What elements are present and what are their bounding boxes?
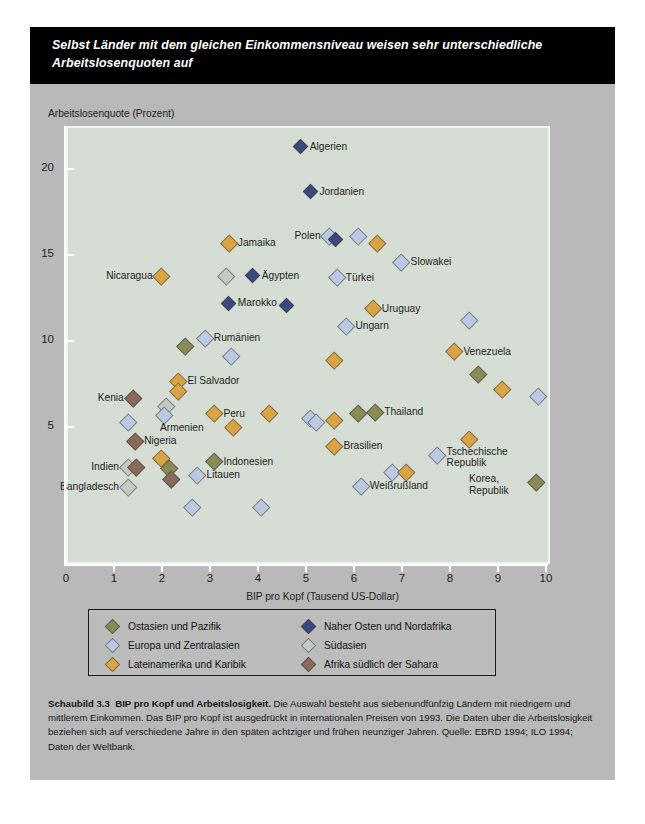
data-point xyxy=(393,253,411,271)
data-point-label: Venezuela xyxy=(463,346,511,358)
x-axis-tick xyxy=(497,564,499,572)
plot-area: AlgerienJordanienJamaikaPolenNicaraguaÄg… xyxy=(66,126,550,564)
data-point xyxy=(527,473,545,491)
x-axis-label: BIP pro Kopf (Tausend US-Dollar) xyxy=(0,591,645,602)
x-axis-tick-label: 9 xyxy=(483,572,513,584)
data-point xyxy=(225,418,243,436)
data-point-label: Marokko xyxy=(238,298,277,310)
data-point xyxy=(326,351,344,369)
data-point-label: Kenia xyxy=(98,392,124,404)
data-point xyxy=(326,437,344,455)
legend-label: Afrika südlich der Sahara xyxy=(324,659,438,670)
data-point-label: Peru xyxy=(223,408,245,420)
data-point-label: Korea, Republik xyxy=(469,473,527,496)
data-point xyxy=(494,381,512,399)
data-point-label: Ägypten xyxy=(262,270,299,282)
data-point xyxy=(328,269,346,287)
data-point xyxy=(429,446,447,464)
data-point-label: Brasilien xyxy=(343,440,382,452)
data-point-label: El Salvador xyxy=(187,375,239,387)
data-point xyxy=(252,498,270,516)
x-axis-tick-label: 5 xyxy=(291,572,321,584)
data-point-label: Thailand xyxy=(384,406,423,418)
data-point-label: Armenien xyxy=(160,422,204,434)
data-point xyxy=(218,267,236,285)
data-point-label: Türkei xyxy=(346,272,374,284)
data-point-label: Algerien xyxy=(310,141,347,153)
data-point-label: Litauen xyxy=(207,470,240,482)
legend-swatch xyxy=(105,638,121,654)
x-axis-tick xyxy=(209,564,211,572)
title-banner: Selbst Länder mit dem gleichen Einkommen… xyxy=(30,27,615,84)
y-axis-tick-label: 15 xyxy=(14,247,54,259)
data-point xyxy=(220,234,238,252)
y-axis-tick xyxy=(66,426,74,428)
data-point xyxy=(222,347,240,365)
x-axis-tick-label: 0 xyxy=(51,572,81,584)
data-point xyxy=(221,296,237,312)
data-point-label: Uruguay xyxy=(382,303,421,315)
data-point xyxy=(470,365,488,383)
plot-points-layer: AlgerienJordanienJamaikaPolenNicaraguaÄg… xyxy=(68,128,548,562)
legend-swatch xyxy=(301,638,317,654)
legend-label: Europa und Zentralasien xyxy=(128,640,240,651)
legend-label: Südasien xyxy=(324,640,366,651)
y-axis-tick xyxy=(66,168,74,170)
data-point xyxy=(530,387,548,405)
data-point xyxy=(153,267,171,285)
legend-swatch xyxy=(105,619,121,635)
data-point-label: Polen xyxy=(295,231,321,243)
data-point xyxy=(338,317,356,335)
figure-page: Selbst Länder mit dem gleichen Einkommen… xyxy=(0,0,645,824)
data-point-label: Jordanien xyxy=(319,186,364,198)
data-point-label: Nigeria xyxy=(144,435,176,447)
x-axis-tick xyxy=(113,564,115,572)
data-point xyxy=(124,389,142,407)
data-point-label: Tschechische Republik xyxy=(447,446,519,469)
figure-caption: Schaubild 3.3 BIP pro Kopf und Arbeitslo… xyxy=(48,697,600,754)
data-point xyxy=(279,297,295,313)
x-axis-tick-label: 4 xyxy=(243,572,273,584)
data-point xyxy=(206,405,224,423)
y-axis-tick xyxy=(66,254,74,256)
data-point xyxy=(398,463,416,481)
data-point xyxy=(261,405,279,423)
legend-swatch xyxy=(301,657,317,673)
data-point-label: Indien xyxy=(91,461,119,473)
data-point xyxy=(369,234,387,252)
x-axis-tick-label: 1 xyxy=(99,572,129,584)
x-axis-tick-label: 7 xyxy=(387,572,417,584)
legend-label: Lateinamerika und Karibik xyxy=(128,659,246,670)
data-point xyxy=(303,184,319,200)
data-point xyxy=(293,139,309,155)
x-axis-tick xyxy=(305,564,307,572)
x-axis-tick-label: 10 xyxy=(531,572,561,584)
y-axis-tick xyxy=(66,340,74,342)
data-point xyxy=(446,343,464,361)
legend-label: Ostasien und Pazifik xyxy=(128,621,221,632)
data-point xyxy=(245,268,261,284)
data-point xyxy=(364,300,382,318)
title-line-1: Selbst Länder mit dem gleichen Einkommen… xyxy=(52,38,542,52)
x-axis-tick xyxy=(161,564,163,572)
data-point-label: Indonesien xyxy=(223,456,273,468)
data-point xyxy=(126,432,144,450)
data-point xyxy=(177,338,195,356)
x-axis-tick xyxy=(257,564,259,572)
legend-swatch xyxy=(105,657,121,673)
y-axis-tick-label: 20 xyxy=(14,161,54,173)
caption-figure-number: Schaubild 3.3 xyxy=(48,698,110,709)
x-axis-tick-label: 8 xyxy=(435,572,465,584)
legend-swatch xyxy=(301,619,317,635)
y-axis-tick-label: 5 xyxy=(14,419,54,431)
data-point xyxy=(119,479,137,497)
data-point-label: Ungarn xyxy=(355,320,388,332)
x-axis-tick xyxy=(353,564,355,572)
data-point xyxy=(183,498,201,516)
data-point xyxy=(350,405,368,423)
data-point xyxy=(350,228,368,246)
x-axis-tick-label: 2 xyxy=(147,572,177,584)
data-point-label: Rumänien xyxy=(214,332,260,344)
x-axis-tick-label: 6 xyxy=(339,572,369,584)
y-axis-label: Arbeitslosenquote (Prozent) xyxy=(48,108,174,119)
